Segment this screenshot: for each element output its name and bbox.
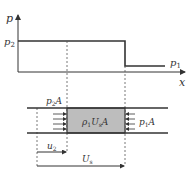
- left-force-arrows: [53, 114, 66, 129]
- right-force-arrows: [126, 114, 135, 129]
- x-axis-label: x: [179, 76, 186, 89]
- p1-level-label: p1: [170, 57, 181, 70]
- pressure-profile: [18, 41, 165, 66]
- pressure-plot: p x p2 p1: [4, 12, 186, 89]
- shock-diagram: p x p2 p1 p2A p1A ρ1UsA u2: [0, 0, 195, 179]
- p2-level-label: p2: [4, 36, 15, 49]
- tube: p2A p1A ρ1UsA: [27, 96, 168, 133]
- right-force-label: p1A: [139, 117, 156, 128]
- u2-label: u2: [47, 141, 57, 152]
- momentum-flux-label: ρ1UsA: [81, 117, 109, 128]
- left-force-label: p2A: [46, 96, 63, 107]
- y-axis-label: p: [6, 12, 13, 25]
- us-label: Us: [82, 154, 93, 165]
- velocity-arrows: u2 Us: [37, 141, 124, 166]
